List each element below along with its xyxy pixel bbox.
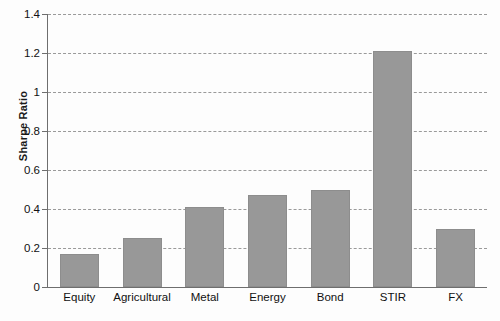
- x-axis-tick-labels: EquityAgriculturalMetalEnergyBondSTIRFX: [48, 291, 487, 311]
- bar: [436, 229, 475, 288]
- y-tick-mark: [42, 92, 47, 93]
- y-tick-mark: [42, 131, 47, 132]
- y-tick-mark: [42, 248, 47, 249]
- y-tick-label: 0: [34, 281, 40, 293]
- bar: [123, 238, 162, 287]
- y-tick-mark: [42, 287, 47, 288]
- y-axis-tick-labels: 00.20.40.60.811.21.4: [0, 0, 46, 321]
- x-tick-label: Energy: [249, 291, 285, 303]
- y-tick-mark: [42, 53, 47, 54]
- bar: [60, 254, 99, 287]
- bar-series: [48, 14, 487, 287]
- y-tick-label: 0.4: [24, 203, 40, 215]
- y-tick-label: 0.2: [24, 242, 40, 254]
- x-tick-label: Bond: [317, 291, 344, 303]
- x-tick-label: STIR: [380, 291, 406, 303]
- x-tick-label: Agricultural: [113, 291, 171, 303]
- y-tick-mark: [42, 170, 47, 171]
- y-tick-label: 0.6: [24, 164, 40, 176]
- bar: [311, 190, 350, 288]
- x-tick-label: FX: [448, 291, 463, 303]
- y-tick-label: 1: [34, 86, 40, 98]
- y-tick-mark: [42, 14, 47, 15]
- bar: [248, 195, 287, 287]
- y-tick-label: 0.8: [24, 125, 40, 137]
- y-tick-mark: [42, 209, 47, 210]
- x-tick-label: Metal: [191, 291, 219, 303]
- x-tick-label: Equity: [63, 291, 95, 303]
- x-axis-baseline: [48, 287, 487, 288]
- bar: [373, 51, 412, 287]
- y-tick-label: 1.2: [24, 47, 40, 59]
- sharpe-ratio-bar-chart: Sharpe Ratio 00.20.40.60.811.21.4 Equity…: [0, 0, 500, 321]
- bar: [185, 207, 224, 287]
- y-tick-label: 1.4: [24, 8, 40, 20]
